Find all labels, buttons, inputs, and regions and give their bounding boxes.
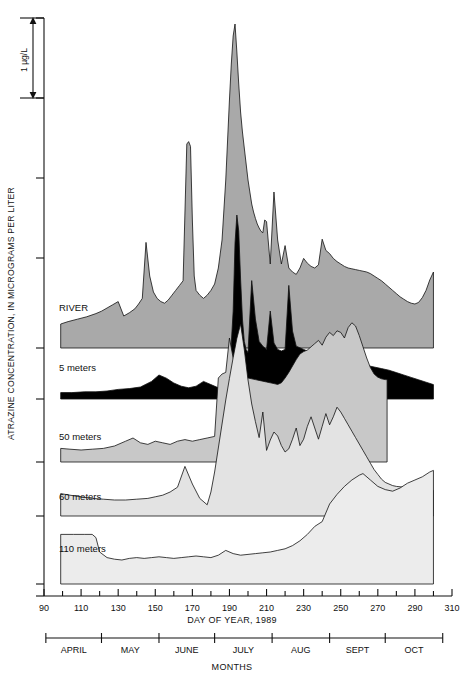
figure-container: ATRAZINE CONCENTRATION, IN MICROGRAMS PE…: [0, 0, 464, 674]
x-axis-title: DAY OF YEAR, 1989: [187, 615, 277, 625]
month-label: JULY: [233, 645, 254, 655]
series-label-110-meters: 110 meters: [59, 543, 106, 554]
month-label: APRIL: [61, 645, 87, 655]
scale-bar-label: 1 µg/L: [19, 48, 29, 72]
x-tick-label: 150: [148, 603, 163, 613]
series-group: [61, 24, 434, 584]
series-label-60-meters: 60 meters: [59, 491, 101, 502]
x-tick-label: 310: [444, 603, 459, 613]
month-label: AUG: [291, 645, 311, 655]
x-tick-label: 110: [74, 603, 88, 613]
x-tick-label: 210: [259, 603, 274, 613]
month-label: OCT: [404, 645, 424, 655]
x-tick-label: 270: [370, 603, 385, 613]
series-label-river: RIVER: [59, 302, 88, 313]
y-axis-title: ATRAZINE CONCENTRATION, IN MICROGRAMS PE…: [6, 187, 16, 440]
series-label-5-meters: 5 meters: [59, 362, 96, 373]
x-tick-label: 90: [39, 603, 49, 613]
x-tick-label: 230: [296, 603, 311, 613]
x-axis: 90110130150170190210230250270290310: [39, 589, 460, 613]
months-axis: APRILMAYJUNEJULYAUGSEPTOCT: [46, 633, 443, 655]
months-axis-title: MONTHS: [212, 662, 253, 672]
month-label: MAY: [121, 645, 140, 655]
x-tick-label: 250: [333, 603, 348, 613]
series-area-river: [61, 24, 434, 348]
x-tick-label: 290: [407, 603, 422, 613]
x-tick-label: 190: [222, 603, 237, 613]
y-axis: [36, 18, 44, 596]
month-label: SEPT: [346, 645, 370, 655]
atrazine-concentration-chart: ATRAZINE CONCENTRATION, IN MICROGRAMS PE…: [0, 0, 464, 674]
x-tick-label: 130: [111, 603, 126, 613]
month-label: JUNE: [175, 645, 199, 655]
series-label-50-meters: 50 meters: [59, 431, 101, 442]
x-tick-label: 170: [185, 603, 200, 613]
